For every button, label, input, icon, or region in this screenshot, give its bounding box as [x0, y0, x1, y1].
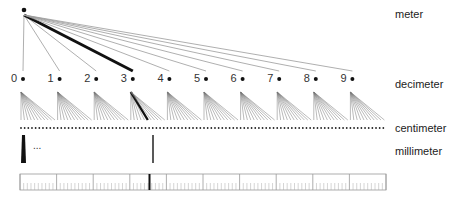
edge-meter-decimeter-4 — [24, 15, 169, 71]
decimeter-node-2 — [94, 77, 98, 81]
metric-hierarchy-diagram — [0, 0, 454, 199]
decimeter-label-4: 4 — [157, 73, 163, 84]
edge-meter-decimeter-6 — [24, 15, 243, 71]
millimeter-wedge — [21, 135, 26, 163]
decimeter-node-0 — [21, 77, 25, 81]
decimeter-label-5: 5 — [194, 73, 200, 84]
decimeter-node-3 — [131, 77, 135, 81]
level-label-decimeter: decimeter — [395, 79, 443, 90]
millimeter-ellipsis: ... — [33, 141, 41, 151]
decimeter-node-9 — [350, 77, 354, 81]
level-label-millimeter: millimeter — [395, 146, 442, 157]
decimeter-label-2: 2 — [84, 73, 90, 84]
decimeter-node-4 — [167, 77, 171, 81]
decimeter-node-7 — [277, 77, 281, 81]
decimeter-node-6 — [241, 77, 245, 81]
decimeter-label-0: 0 — [11, 73, 17, 84]
edge-meter-decimeter-0 — [23, 15, 24, 71]
edge-meter-decimeter-8 — [24, 15, 316, 71]
decimeter-label-8: 8 — [304, 73, 310, 84]
level-label-centimeter: centimeter — [395, 123, 446, 134]
edge-meter-decimeter-9 — [24, 15, 352, 71]
decimeter-label-7: 7 — [267, 73, 273, 84]
level-label-meter: meter — [395, 9, 423, 20]
edge-meter-decimeter-7 — [24, 15, 279, 71]
edge-meter-decimeter-2 — [24, 15, 96, 71]
decimeter-label-9: 9 — [340, 73, 346, 84]
decimeter-label-6: 6 — [231, 73, 237, 84]
meter-node — [22, 8, 27, 13]
decimeter-label-1: 1 — [48, 73, 54, 84]
decimeter-node-8 — [314, 77, 318, 81]
decimeter-label-3: 3 — [121, 73, 127, 84]
decimeter-node-5 — [204, 77, 208, 81]
decimeter-node-1 — [58, 77, 62, 81]
edge-meter-decimeter-3 — [24, 15, 133, 71]
